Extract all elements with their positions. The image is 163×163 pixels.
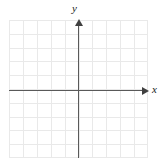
x-axis-line bbox=[9, 90, 143, 91]
coordinate-grid-figure: x y bbox=[0, 0, 163, 163]
y-axis-line bbox=[78, 25, 79, 158]
arrow-right-icon bbox=[142, 87, 149, 95]
x-axis-label: x bbox=[152, 84, 157, 95]
arrow-up-icon bbox=[75, 19, 83, 26]
y-axis-label: y bbox=[72, 3, 77, 14]
